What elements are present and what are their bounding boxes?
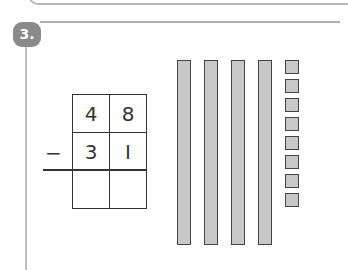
subtrahend-row: 3 I	[73, 133, 147, 171]
answer-ones-cell[interactable]	[110, 171, 147, 209]
exercise-number-badge: 3.	[13, 22, 41, 47]
tens-rod	[258, 60, 272, 245]
minuend-row: 4 8	[73, 95, 147, 133]
answer-tens-cell[interactable]	[73, 171, 110, 209]
unit-cube	[285, 136, 299, 150]
unit-cube	[285, 98, 299, 112]
unit-cube	[285, 193, 299, 207]
minuend-tens: 4	[73, 95, 110, 133]
subtraction-grid: 4 8 3 I	[72, 94, 147, 209]
unit-cube	[285, 79, 299, 93]
answer-row	[73, 171, 147, 209]
tens-rod	[231, 60, 245, 245]
minuend-ones: 8	[110, 95, 147, 133]
subtrahend-tens: 3	[73, 133, 110, 171]
subtrahend-ones: I	[110, 133, 147, 171]
exercise-side-line	[25, 44, 27, 270]
unit-cube	[285, 155, 299, 169]
previous-exercise-box	[28, 0, 348, 5]
unit-cube	[285, 117, 299, 131]
minus-sign: −	[45, 141, 62, 165]
tens-rod	[204, 60, 218, 245]
exercise-header-line	[40, 21, 340, 23]
unit-cube	[285, 60, 299, 74]
sum-line	[43, 169, 147, 171]
tens-rod	[177, 60, 191, 245]
unit-cube	[285, 174, 299, 188]
